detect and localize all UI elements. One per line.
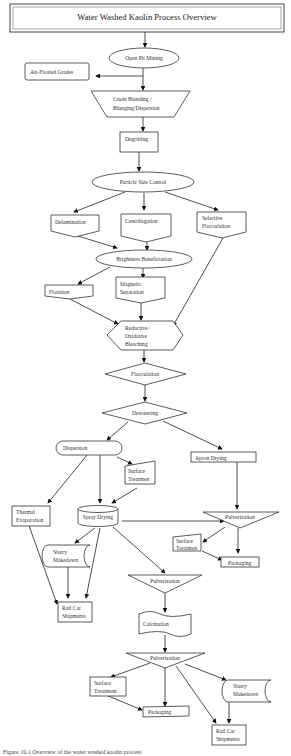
svg-text:Selective: Selective <box>202 215 223 221</box>
diagram-title: Water Washed Kaolin Process Overview <box>77 12 217 22</box>
node-crude-blending: Crude Blending / Blunging/Dispersion <box>91 91 190 117</box>
node-thermal-evaporation: Thermal Evaporation <box>12 506 50 526</box>
node-selective-flocculation: Selective Flocculation <box>197 212 246 238</box>
svg-text:Separation: Separation <box>120 289 144 295</box>
node-centrifugation: Centrifugation <box>121 214 171 242</box>
svg-text:Treatmen: Treatmen <box>176 545 197 551</box>
svg-text:Flocculation: Flocculation <box>202 223 230 229</box>
svg-text:Surface: Surface <box>128 468 146 474</box>
node-slurry-makedown-right: Slurry Makedown <box>222 680 271 702</box>
node-spray-drying: Spray Drying <box>78 506 118 527</box>
node-dewatering: Dewatering <box>102 402 187 424</box>
svg-text:Pulverization: Pulverization <box>150 578 180 584</box>
node-surface-treatment-a: Surface Treatmen <box>125 461 155 484</box>
node-pulverization-right: Pulverization <box>203 512 279 528</box>
svg-text:Bleaching: Bleaching <box>125 341 148 347</box>
node-rail-car-left: Rail Car Shipments <box>58 602 92 622</box>
svg-text:Reductive /: Reductive / <box>125 325 151 331</box>
svg-text:Pulverization: Pulverization <box>150 655 180 661</box>
node-surface-treatment-c: Surface Treatment <box>90 677 126 696</box>
svg-text:Flocculation: Flocculation <box>131 371 159 377</box>
node-pulverization-bottom: Pulverization <box>126 653 205 668</box>
svg-text:Shipments: Shipments <box>62 613 86 619</box>
svg-text:Evaporation: Evaporation <box>16 517 44 523</box>
svg-text:Brightness Beneficiation: Brightness Beneficiation <box>116 256 172 262</box>
svg-text:Rail Car: Rail Car <box>62 605 81 611</box>
node-rail-car-right: Rail Car Shipments <box>212 725 246 745</box>
svg-text:Centrifugation: Centrifugation <box>125 218 158 224</box>
node-flocculation: Flocculation <box>105 363 186 385</box>
node-packaging-bottom: Packaging <box>143 706 189 717</box>
node-brightness-beneficiation: Brightness Beneficiation <box>96 250 192 268</box>
svg-text:Surface: Surface <box>94 680 112 686</box>
node-calcination: Calcination <box>139 612 191 637</box>
node-air-floated-grades: Air-Floated Grades <box>25 63 89 80</box>
node-pulverization-mid: Pulverization <box>128 575 202 593</box>
svg-text:Oxidative: Oxidative <box>125 333 148 339</box>
svg-text:Packaging: Packaging <box>228 560 252 566</box>
svg-text:Packaging: Packaging <box>148 709 172 715</box>
node-magnetic-separation: Magnetic Separation <box>116 277 165 303</box>
svg-text:Dewatering: Dewatering <box>132 410 158 416</box>
svg-text:Spray Drying: Spray Drying <box>83 514 113 520</box>
svg-text:Shipments: Shipments <box>216 736 240 742</box>
svg-text:Degritting: Degritting <box>125 136 148 142</box>
figure-caption: Figure 10.1 Overview of the water washed… <box>3 749 142 755</box>
svg-text:Air-Floated Grades: Air-Floated Grades <box>30 69 73 75</box>
svg-text:Delamination: Delamination <box>55 219 86 225</box>
process-flowchart: Water Washed Kaolin Process Overview <box>0 0 291 756</box>
svg-text:Crude Blending /: Crude Blending / <box>113 96 152 102</box>
svg-text:Surface: Surface <box>176 538 194 544</box>
svg-text:Blunging/Dispersion: Blunging/Dispersion <box>113 105 160 111</box>
svg-text:Pulverization: Pulverization <box>225 514 255 520</box>
node-slurry-makedown-left: Slurry Makedown <box>42 545 90 567</box>
svg-text:Flotation: Flotation <box>49 289 69 295</box>
node-apron-drying: Apron Drying <box>191 452 256 462</box>
node-particle-size-control: Particle Size Control <box>92 172 194 192</box>
node-bleaching: Reductive / Oxidative Bleaching <box>107 321 183 350</box>
svg-text:Calcination: Calcination <box>143 621 169 627</box>
svg-text:Slurry: Slurry <box>53 549 67 555</box>
node-open-pit-mining: Open Pit Mining <box>109 48 179 68</box>
svg-text:Makedown: Makedown <box>53 557 78 563</box>
svg-text:Thermal: Thermal <box>16 509 35 515</box>
svg-text:Magnetic: Magnetic <box>120 281 142 287</box>
svg-text:Makedown: Makedown <box>233 691 258 697</box>
svg-text:Apron Drying: Apron Drying <box>195 455 227 461</box>
svg-text:Particle Size Control: Particle Size Control <box>120 179 167 185</box>
node-surface-treatment-b: Surface Treatmen <box>173 534 201 551</box>
svg-text:Rail Car: Rail Car <box>216 728 235 734</box>
title-box: Water Washed Kaolin Process Overview <box>10 4 284 32</box>
node-dispersion: Dispersion <box>56 441 122 455</box>
svg-text:Slurry: Slurry <box>233 683 247 689</box>
svg-text:Open Pit Mining: Open Pit Mining <box>125 55 163 61</box>
svg-text:Treatmen: Treatmen <box>128 476 149 482</box>
svg-text:Treatment: Treatment <box>94 688 117 694</box>
svg-text:Dispersion: Dispersion <box>63 445 87 451</box>
node-packaging-right: Packaging <box>221 557 259 567</box>
node-delamination: Delamination <box>51 215 99 237</box>
node-degritting: Degritting <box>120 132 158 152</box>
node-flotation: Flotation <box>45 285 93 299</box>
